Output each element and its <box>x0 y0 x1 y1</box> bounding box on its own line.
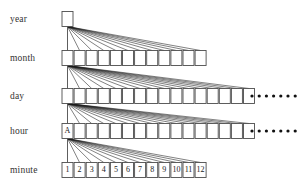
node-day-1[interactable] <box>62 89 73 104</box>
edge-month-to-day-11 <box>68 66 201 89</box>
node-day-12[interactable] <box>195 89 206 104</box>
node-label-minute-3: 3 <box>90 165 94 174</box>
edge-year-to-month-5 <box>68 27 129 51</box>
edge-year-to-month-7 <box>68 27 153 51</box>
node-hour-8[interactable] <box>147 124 158 139</box>
node-hour-11[interactable] <box>183 124 194 139</box>
node-month-9[interactable] <box>159 51 170 66</box>
ellipsis-dot-hour-1 <box>250 129 253 132</box>
edge-hour-to-minute-7 <box>68 139 153 163</box>
node-month-2[interactable] <box>74 51 85 66</box>
node-day-5[interactable] <box>110 89 121 104</box>
node-label-minute-2: 2 <box>78 165 82 174</box>
ellipsis-dot-day-6 <box>286 94 289 97</box>
node-hour-7[interactable] <box>135 124 146 139</box>
edge-year-to-month-9 <box>68 27 177 51</box>
node-month-4[interactable] <box>98 51 109 66</box>
nodes-layer: A123456789101112 <box>62 12 255 178</box>
edge-hour-to-minute-4 <box>68 139 116 163</box>
node-label-minute-4: 4 <box>102 165 106 174</box>
node-day-8[interactable] <box>147 89 158 104</box>
edge-year-to-month-11 <box>68 27 201 51</box>
edge-hour-to-minute-11 <box>68 139 201 163</box>
row-label-year: year <box>10 14 28 24</box>
node-hour-13[interactable] <box>207 124 218 139</box>
node-day-7[interactable] <box>135 89 146 104</box>
edge-month-to-day-5 <box>68 66 129 89</box>
node-hour-5[interactable] <box>110 124 121 139</box>
node-month-6[interactable] <box>123 51 134 66</box>
node-month-5[interactable] <box>110 51 121 66</box>
ellipsis-dot-hour-4 <box>272 129 275 132</box>
row-label-minute: minute <box>10 165 38 175</box>
edge-hour-to-minute-5 <box>68 139 129 163</box>
node-label-minute-7: 7 <box>138 165 142 174</box>
node-label-hour-1: A <box>65 126 71 135</box>
node-label-minute-12: 12 <box>197 165 205 174</box>
node-label-minute-1: 1 <box>66 165 70 174</box>
node-month-11[interactable] <box>183 51 194 66</box>
node-month-12[interactable] <box>195 51 206 66</box>
ellipsis-dot-day-3 <box>265 94 268 97</box>
ellipsis-dot-day-4 <box>272 94 275 97</box>
node-month-1[interactable] <box>62 51 73 66</box>
ellipsis-dot-hour-2 <box>258 129 261 132</box>
node-hour-3[interactable] <box>86 124 97 139</box>
row-label-day: day <box>10 91 24 101</box>
node-month-7[interactable] <box>135 51 146 66</box>
ellipsis-dot-hour-5 <box>279 129 282 132</box>
node-hour-14[interactable] <box>219 124 230 139</box>
node-hour-12[interactable] <box>195 124 206 139</box>
node-day-13[interactable] <box>207 89 218 104</box>
node-label-minute-9: 9 <box>162 165 166 174</box>
node-label-minute-6: 6 <box>126 165 130 174</box>
node-day-4[interactable] <box>98 89 109 104</box>
node-day-10[interactable] <box>171 89 182 104</box>
node-day-9[interactable] <box>159 89 170 104</box>
edge-year-to-month-4 <box>68 27 116 51</box>
node-hour-4[interactable] <box>98 124 109 139</box>
node-day-6[interactable] <box>123 89 134 104</box>
ellipsis-dot-day-2 <box>258 94 261 97</box>
node-month-3[interactable] <box>86 51 97 66</box>
node-day-2[interactable] <box>74 89 85 104</box>
node-day-15[interactable] <box>231 89 242 104</box>
row-labels-layer: yearmonthdayhourminute <box>10 14 38 175</box>
ellipsis-dot-day-7 <box>294 94 297 97</box>
ellipsis-dot-hour-7 <box>294 129 297 132</box>
node-hour-15[interactable] <box>231 124 242 139</box>
edge-month-to-day-8 <box>68 66 165 89</box>
edge-hour-to-minute-9 <box>68 139 177 163</box>
diagram-canvas: A123456789101112 yearmonthdayhourminute <box>0 0 306 189</box>
ellipsis-dot-day-1 <box>250 94 253 97</box>
node-label-minute-10: 10 <box>172 165 180 174</box>
node-day-14[interactable] <box>219 89 230 104</box>
edge-month-to-day-15 <box>68 66 250 89</box>
node-day-11[interactable] <box>183 89 194 104</box>
row-label-hour: hour <box>10 126 29 136</box>
edge-year-to-month-8 <box>68 27 165 51</box>
node-hour-9[interactable] <box>159 124 170 139</box>
edge-day-to-hour-15 <box>68 104 250 124</box>
node-month-10[interactable] <box>171 51 182 66</box>
node-hour-6[interactable] <box>123 124 134 139</box>
ellipsis-dot-day-5 <box>279 94 282 97</box>
time-granularity-tree: A123456789101112 yearmonthdayhourminute <box>0 0 306 189</box>
ellipsis-dot-hour-6 <box>286 129 289 132</box>
node-month-8[interactable] <box>147 51 158 66</box>
edge-day-to-hour-5 <box>68 104 129 124</box>
node-hour-10[interactable] <box>171 124 182 139</box>
node-year-1[interactable] <box>62 12 73 27</box>
node-label-minute-5: 5 <box>114 165 118 174</box>
edge-hour-to-minute-8 <box>68 139 165 163</box>
node-day-3[interactable] <box>86 89 97 104</box>
ellipsis-layer <box>250 94 296 132</box>
node-label-minute-11: 11 <box>185 165 193 174</box>
edge-day-to-hour-8 <box>68 104 165 124</box>
node-label-minute-8: 8 <box>150 165 154 174</box>
row-label-month: month <box>10 53 35 63</box>
ellipsis-dot-hour-3 <box>265 129 268 132</box>
node-hour-2[interactable] <box>74 124 85 139</box>
